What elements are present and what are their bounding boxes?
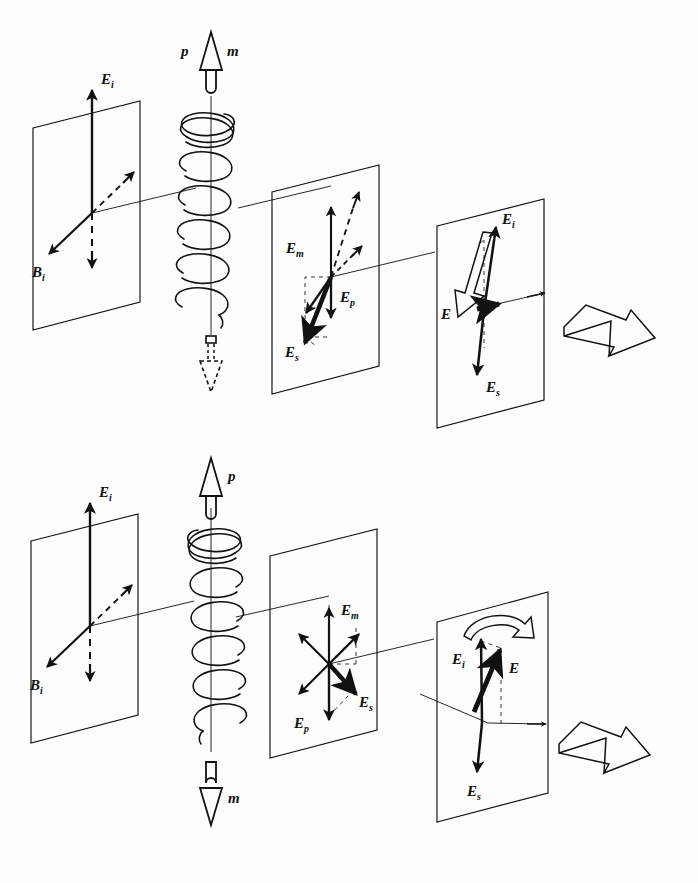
- label-p-bottom: p: [226, 468, 236, 484]
- background: [0, 0, 698, 883]
- label-p-top: p: [179, 43, 189, 59]
- vector-Ei: [481, 639, 482, 723]
- optical-activity-diagram: Ei Bi p m: [0, 0, 698, 883]
- figure-canvas: Ei Bi p m: [0, 0, 698, 883]
- label-E: E: [440, 306, 451, 322]
- label-E: E: [508, 660, 519, 676]
- label-m-bottom: m: [228, 790, 240, 806]
- label-m-top: m: [227, 43, 239, 59]
